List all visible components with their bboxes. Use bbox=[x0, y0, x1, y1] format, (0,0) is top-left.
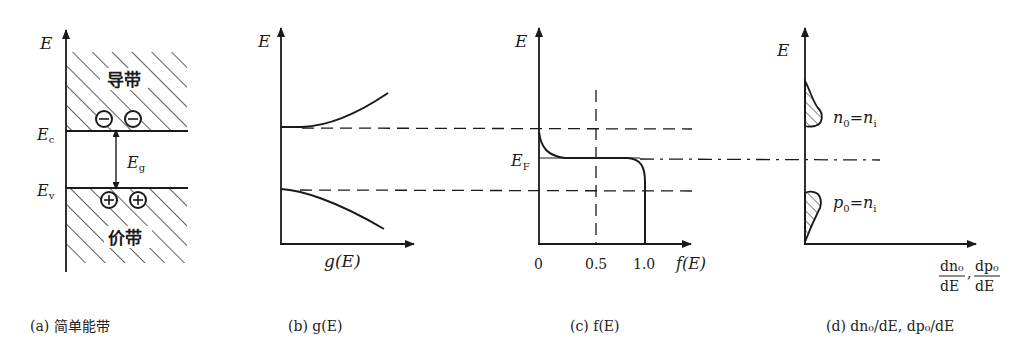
svg-text:dE: dE bbox=[940, 278, 959, 294]
energy-axis-label: E bbox=[39, 33, 53, 53]
eg-label: Eg bbox=[126, 153, 146, 173]
ef-label: EF bbox=[510, 151, 530, 172]
panel-d-carrier-distribution: E n0=ni p0=ni dn₀ dE , dp₀ dE (d) dn₀/dE… bbox=[776, 28, 1000, 334]
ec-dashed-guide bbox=[302, 128, 692, 129]
density-axis-label: dn₀ dE , dp₀ dE bbox=[939, 258, 1000, 294]
panel-a-simple-band: E 导带 价带 Ec Ev Eg (a) 简单能带 bbox=[30, 30, 188, 334]
hole-distribution-lobe bbox=[805, 192, 821, 242]
ec-label: Ec bbox=[36, 125, 55, 145]
valence-dos-curve bbox=[281, 189, 384, 229]
f-axis-label: f(E) bbox=[675, 254, 706, 273]
hole-icon bbox=[130, 192, 146, 208]
valence-band-hatch bbox=[67, 188, 187, 263]
fermi-dirac-curve bbox=[539, 132, 645, 244]
electron-icon bbox=[125, 111, 141, 127]
svg-text:dE: dE bbox=[975, 278, 994, 294]
electron-distribution-lobe bbox=[805, 81, 822, 127]
hole-icon bbox=[101, 192, 117, 208]
band-diagram-figure: E 导带 价带 Ec Ev Eg (a) 简单能带 E g(E) (b) g(E… bbox=[0, 0, 1034, 358]
caption-b: (b) g(E) bbox=[288, 318, 342, 334]
p0-equals-ni-label: p0=ni bbox=[833, 193, 877, 214]
ef-dash-dot-guide bbox=[640, 159, 880, 160]
caption-a: (a) 简单能带 bbox=[30, 318, 110, 334]
electron-icon bbox=[96, 111, 112, 127]
panel-b-density-of-states: E g(E) (b) g(E) bbox=[257, 28, 692, 334]
caption-c: (c) f(E) bbox=[570, 318, 620, 334]
energy-axis-label: E bbox=[514, 31, 528, 51]
conduction-band-label: 导带 bbox=[107, 70, 141, 90]
svg-text:dn₀: dn₀ bbox=[940, 258, 964, 274]
caption-d: (d) dn₀/dE, dp₀/dE bbox=[826, 318, 954, 334]
energy-axis-label: E bbox=[776, 40, 790, 60]
valence-band-label: 价带 bbox=[108, 228, 142, 248]
tick-0-5: 0.5 bbox=[585, 256, 607, 272]
ev-label: Ev bbox=[36, 181, 55, 201]
tick-0: 0 bbox=[534, 256, 543, 272]
conduction-dos-curve bbox=[281, 93, 388, 127]
g-axis-label: g(E) bbox=[324, 251, 361, 271]
ev-dashed-guide bbox=[300, 190, 692, 191]
n0-equals-ni-label: n0=ni bbox=[833, 108, 877, 129]
svg-text:dp₀: dp₀ bbox=[975, 258, 999, 274]
svg-text:,: , bbox=[967, 265, 971, 281]
tick-1-0: 1.0 bbox=[633, 256, 655, 272]
panel-c-fermi-function: E EF 0 0.5 1.0 f(E) (c) f(E) bbox=[510, 28, 880, 334]
energy-axis-label: E bbox=[257, 31, 271, 51]
